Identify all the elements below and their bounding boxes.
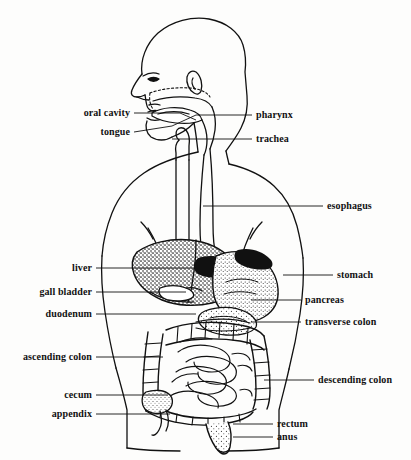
label-duodenum: duodenum <box>46 309 92 319</box>
label-esophagus: esophagus <box>327 201 372 211</box>
label-trachea: trachea <box>256 134 289 144</box>
label-tongue: tongue <box>101 127 131 137</box>
anatomy-illustration <box>0 0 411 460</box>
label-pharynx: pharynx <box>256 110 293 120</box>
label-rectum: rectum <box>277 419 308 429</box>
trachea <box>176 128 190 250</box>
label-anus: anus <box>277 432 297 442</box>
label-liver: liver <box>72 263 92 273</box>
label-descending-colon: descending colon <box>318 375 392 385</box>
head-profile <box>131 18 247 151</box>
label-pancreas: pancreas <box>305 295 344 305</box>
label-transverse-colon: transverse colon <box>305 317 376 327</box>
label-appendix: appendix <box>52 409 92 419</box>
label-cecum: cecum <box>64 390 92 400</box>
label-stomach: stomach <box>337 270 373 280</box>
small-intestine <box>170 338 252 408</box>
pharynx <box>202 107 215 155</box>
digestive-system-figure: oral cavitytonguelivergall bladderduoden… <box>0 0 411 460</box>
label-ascending-colon: ascending colon <box>23 352 92 362</box>
label-oral-cavity: oral cavity <box>84 108 130 118</box>
rectum <box>206 422 231 454</box>
cecum <box>142 390 172 413</box>
label-gall-bladder: gall bladder <box>39 287 92 297</box>
